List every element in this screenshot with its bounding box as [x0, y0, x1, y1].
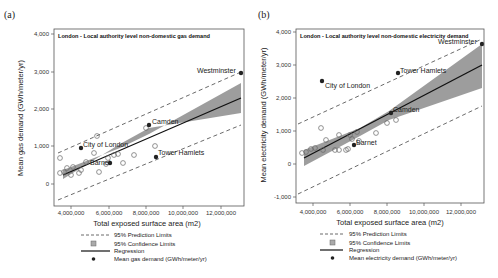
label-barnet-a: Barnet: [90, 159, 111, 166]
panel-b-ytick: -1,000: [274, 194, 292, 200]
panel-b-title: London - Local authority level non-domes…: [300, 33, 469, 39]
panel-a-ytick: 3,000: [34, 69, 50, 75]
panel-b-y-axis: [293, 32, 296, 197]
label-barnet-b: Barnet: [356, 139, 377, 146]
legend-regression: Regression: [114, 248, 144, 254]
point-camden-a: [147, 123, 151, 127]
panel-a-x-axis-title: Total exposed surface area (m2): [93, 219, 201, 228]
panel-b-ytick: 2,000: [276, 95, 292, 101]
panel-b-legend: 95% Prediction Limits 95% Confidence Lim…: [320, 231, 457, 261]
label-city-of-london-b: City of London: [325, 82, 370, 90]
label-westminster-a: Westminster: [197, 67, 236, 74]
panel-b-ytick: 0: [288, 161, 292, 167]
panel-a: (a) Westminster Camden City of London To…: [4, 9, 244, 262]
panel-b-y-axis-title: Mean electricity demand (GWh/meter/yr): [259, 47, 268, 183]
panel-a-legend: 95% Prediction Limits 95% Confidence Lim…: [81, 232, 207, 262]
legend-points: Mean electricity demand (GWh/meter/yr): [349, 255, 457, 261]
panel-b-confidence-band: [304, 44, 482, 166]
label-tower-hamlets-a: Tower Hamlets: [158, 149, 205, 156]
point-westminster-a: [239, 71, 243, 75]
panel-b-ytick: 3,000: [276, 62, 292, 68]
panel-b-ytick: 1,000: [276, 128, 292, 134]
panel-a-title: London - Local authority level non-domes…: [58, 33, 211, 39]
panel-a-x-axis: [71, 206, 221, 209]
legend-confidence-limits: 95% Confidence Limits: [349, 240, 410, 246]
panel-a-xtick: 4,000,000: [58, 210, 85, 216]
label-city-of-london-a: City of London: [83, 141, 128, 149]
point-city-of-london-b: [320, 79, 324, 83]
panel-a-xtick: 8,000,000: [133, 210, 160, 216]
panel-b-xtick: 4,000,000: [300, 209, 327, 215]
panel-b-xtick: 10,000,000: [409, 209, 440, 215]
legend-confidence-limits: 95% Confidence Limits: [114, 241, 175, 247]
panel-a-y-axis-title: Mean gas demand (GWh/meter/yr): [16, 60, 25, 176]
panel-b-ytick: 4,000: [276, 29, 292, 35]
legend-points: Mean gas demand (GWh/meter/yr): [114, 256, 207, 262]
panel-b-label: (b): [258, 9, 270, 21]
panel-a-ytick: 4,000: [34, 31, 50, 37]
panel-b-xtick: 8,000,000: [374, 209, 401, 215]
figure: (a) Westminster Camden City of London To…: [0, 0, 498, 278]
panel-a-xtick: 10,000,000: [168, 210, 199, 216]
panel-b-xtick: 12,000,000: [446, 209, 477, 215]
panel-b-x-axis: [313, 203, 461, 206]
legend-prediction-limits: 95% Prediction Limits: [349, 231, 407, 237]
panel-b-xtick: 6,000,000: [337, 209, 364, 215]
panel-a-ytick: 2,000: [34, 106, 50, 112]
label-westminster-b: Westminster: [438, 38, 477, 45]
label-camden-b: Camden: [393, 106, 420, 113]
label-camden-a: Camden: [152, 118, 179, 125]
panel-a-xtick: 6,000,000: [96, 210, 123, 216]
panel-a-frame: [54, 29, 244, 206]
panel-b: (b) Westminster Tower Hamlets City of Lo…: [258, 9, 484, 261]
legend-prediction-limits: 95% Prediction Limits: [114, 232, 172, 238]
legend-regression: Regression: [349, 247, 379, 253]
panel-a-label: (a): [4, 9, 15, 21]
point-westminster-b: [480, 42, 484, 46]
panel-a-ytick: 1,000: [34, 143, 50, 149]
panel-a-ytick: 0: [46, 181, 50, 187]
panel-a-y-axis: [51, 34, 54, 184]
panel-b-x-axis-title: Total exposed surface area (m2): [336, 218, 444, 227]
panel-a-xtick: 12,000,000: [206, 210, 237, 216]
label-tower-hamlets-b: Tower Hamlets: [400, 67, 447, 74]
